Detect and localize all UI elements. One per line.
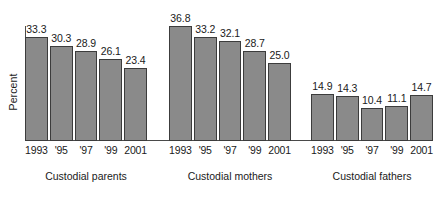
bar[interactable] [169,26,192,141]
x-axis-tick-labels: 1993'95'97'992001 [169,144,291,156]
bar-item[interactable]: 33.3 [25,0,48,141]
bar-group-bars: 14.914.310.411.114.7 [311,0,433,141]
bar-group-caption: Custodial mothers [169,170,291,182]
y-axis-title: Percent [7,57,19,127]
bar-value-label: 14.9 [312,80,332,92]
bar-group: 36.833.232.128.725.01993'95'97'992001Cus… [169,0,291,141]
bar-item[interactable]: 28.7 [243,0,266,141]
bar-value-label: 28.9 [76,37,96,49]
bar[interactable] [385,106,408,141]
bar-item[interactable]: 14.9 [311,0,334,141]
bar-group-caption: Custodial fathers [311,170,433,182]
bar-group: 33.330.328.926.123.41993'95'97'992001Cus… [25,0,147,141]
bar-group-caption: Custodial parents [25,170,147,182]
bar[interactable] [336,96,359,141]
bar-value-label: 26.1 [101,45,121,57]
bar-value-label: 32.1 [220,27,240,39]
bar[interactable] [50,46,73,141]
bar-item[interactable]: 26.1 [99,0,122,141]
x-axis-tick-label: 1993 [25,144,48,156]
bar-chart: Percent 33.330.328.926.123.41993'95'97'9… [0,0,441,207]
bar-value-label: 28.7 [245,37,265,49]
bar-item[interactable]: 10.4 [361,0,384,141]
bar-item[interactable]: 14.3 [336,0,359,141]
bar-value-label: 33.3 [26,23,46,35]
bar-item[interactable]: 23.4 [124,0,147,141]
x-axis-tick-label: '97 [361,144,384,156]
bar-group-bars: 33.330.328.926.123.4 [25,0,147,141]
bar-value-label: 25.0 [270,49,290,61]
bar-item[interactable]: 30.3 [50,0,73,141]
bar-item[interactable]: 14.7 [410,0,433,141]
bar-value-label: 33.2 [195,23,215,35]
x-axis-tick-label: 2001 [268,144,291,156]
x-axis-tick-label: '99 [385,144,408,156]
x-axis-tick-label: '95 [50,144,73,156]
bar-item[interactable]: 25.0 [268,0,291,141]
bar[interactable] [268,63,291,141]
x-axis-tick-label: 2001 [124,144,147,156]
bar-item[interactable]: 28.9 [75,0,98,141]
plot-area: 33.330.328.926.123.41993'95'97'992001Cus… [25,0,433,141]
bar[interactable] [361,108,384,141]
bar[interactable] [243,51,266,141]
bar[interactable] [410,95,433,141]
bar-value-label: 23.4 [126,54,146,66]
x-axis-tick-labels: 1993'95'97'992001 [311,144,433,156]
x-axis-tick-label: 2001 [410,144,433,156]
bar-value-label: 14.7 [412,81,432,93]
x-axis-tick-label: '99 [99,144,122,156]
x-axis-tick-label: '99 [243,144,266,156]
bar[interactable] [75,51,98,141]
bar-item[interactable]: 11.1 [385,0,408,141]
bar-value-label: 11.1 [387,92,406,104]
x-axis-tick-label: 1993 [311,144,334,156]
bar[interactable] [25,37,48,141]
bar[interactable] [219,41,242,141]
bar-item[interactable]: 33.2 [194,0,217,141]
x-axis-tick-labels: 1993'95'97'992001 [25,144,147,156]
x-axis-tick-label: '97 [219,144,242,156]
x-axis-tick-label: '95 [336,144,359,156]
x-axis-tick-label: '95 [194,144,217,156]
bar-group-bars: 36.833.232.128.725.0 [169,0,291,141]
bar-group: 14.914.310.411.114.71993'95'97'992001Cus… [311,0,433,141]
bar[interactable] [124,68,147,141]
bar-item[interactable]: 32.1 [219,0,242,141]
bar-item[interactable]: 36.8 [169,0,192,141]
bar[interactable] [194,37,217,141]
bar-value-label: 14.3 [337,82,357,94]
bar-value-label: 36.8 [170,12,190,24]
bar-value-label: 30.3 [51,32,71,44]
bar[interactable] [99,59,122,141]
bar[interactable] [311,94,334,141]
bar-value-label: 10.4 [362,94,382,106]
x-axis-tick-label: '97 [75,144,98,156]
x-axis-tick-label: 1993 [169,144,192,156]
